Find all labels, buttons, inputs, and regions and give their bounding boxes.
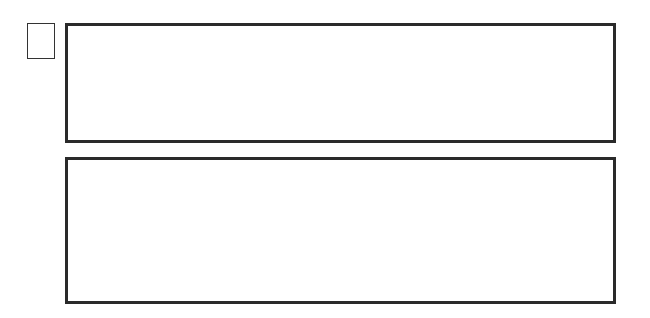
answer-options-panel — [65, 157, 616, 304]
movement-rules-panel — [65, 23, 616, 143]
question-number — [27, 23, 55, 59]
